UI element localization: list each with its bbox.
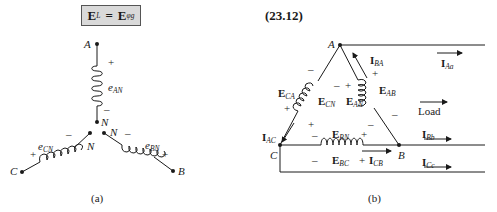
e-an-sub: AN xyxy=(113,86,123,95)
e-bn-label: EBN xyxy=(332,129,349,142)
caption-b: (b) xyxy=(368,192,381,204)
i-ac-label: IAC xyxy=(262,132,276,145)
node-a-dot xyxy=(95,42,99,46)
e-bn-sub: BN xyxy=(339,133,349,142)
node-b-label: B xyxy=(398,150,405,161)
e-an-label: EAN xyxy=(346,96,363,109)
node-b-label: B xyxy=(178,166,185,177)
node-n-dot xyxy=(88,131,92,135)
plus-sign: + xyxy=(30,149,36,160)
minus-sign: – xyxy=(392,109,398,120)
i-aa-sub: Aa xyxy=(445,62,453,71)
node-a-label: A xyxy=(328,39,335,50)
e-ca-sub: CA xyxy=(285,92,295,101)
coil-an xyxy=(92,44,103,122)
e-ab-label: EAB xyxy=(379,85,396,98)
caption-a: (a) xyxy=(91,192,103,204)
node-n-label: N xyxy=(101,117,108,128)
i-cc-sub: Cc xyxy=(426,161,434,170)
e-cn-sub: CN xyxy=(43,145,53,154)
plus-sign: + xyxy=(372,68,378,79)
formula-rhs-sub: φg xyxy=(127,11,135,20)
node-a-label: A xyxy=(84,39,91,50)
e-cn-label: eCN xyxy=(38,141,53,154)
node-n-label: N xyxy=(110,127,117,138)
e-cn-label: ECN xyxy=(318,96,335,109)
minus-sign: – xyxy=(125,128,131,139)
minus-sign: – xyxy=(104,104,110,115)
minus-sign: – xyxy=(368,119,374,130)
i-cc-label: ICc xyxy=(422,157,435,170)
i-cb-label: ICB xyxy=(369,155,383,168)
formula-box: EL = Eφg xyxy=(81,5,141,26)
arrow-iac xyxy=(282,123,294,142)
i-bb-sub: Bb xyxy=(426,133,434,142)
e-an-sub: AN xyxy=(353,100,363,109)
load-label: Load xyxy=(418,106,441,117)
node-c-dot xyxy=(20,170,24,174)
minus-sign: – xyxy=(66,129,72,140)
node-b-dot xyxy=(171,169,175,173)
node-n-dot xyxy=(95,120,99,124)
i-cb-sub: CB xyxy=(373,159,383,168)
plus-sign: + xyxy=(284,103,290,114)
node-a-dot xyxy=(338,43,342,47)
e-ca-label: ECA xyxy=(278,88,295,101)
plus-sign: + xyxy=(361,129,367,140)
i-ba-label: IBA xyxy=(370,55,383,68)
plus-sign: + xyxy=(345,80,351,91)
formula-lhs: E xyxy=(88,8,97,24)
node-c-label: C xyxy=(10,166,17,177)
node-b-dot xyxy=(397,143,401,147)
node-c-label: C xyxy=(270,150,277,161)
e-bc-label: EBC xyxy=(332,155,349,168)
formula-lhs-sub: L xyxy=(96,11,100,20)
node-n-label: N xyxy=(87,141,94,152)
formula-equals: = xyxy=(105,8,112,24)
node-c-dot xyxy=(278,143,282,147)
i-ac-sub: AC xyxy=(266,136,276,145)
minus-sign: – xyxy=(312,155,318,166)
minus-sign: – xyxy=(308,64,314,75)
plus-sign: + xyxy=(162,149,168,160)
e-ab-sub: AB xyxy=(386,89,395,98)
e-cn-sub: CN xyxy=(325,100,335,109)
formula-rhs: E xyxy=(118,8,127,24)
minus-sign: – xyxy=(334,80,340,91)
coil-ca xyxy=(293,83,313,111)
node-n-dot xyxy=(102,131,106,135)
i-bb-label: IBb xyxy=(422,129,435,142)
plus-sign: + xyxy=(108,57,114,68)
e-bc-sub: BC xyxy=(339,159,349,168)
e-bn-label: eBN xyxy=(145,140,159,153)
plus-sign: + xyxy=(359,155,365,166)
minus-sign: – xyxy=(312,130,318,141)
e-an-label: eAN xyxy=(108,82,122,95)
equation-number: (23.12) xyxy=(265,8,303,24)
e-bn-sub: BN xyxy=(150,144,160,153)
i-aa-label: IAa xyxy=(441,58,454,71)
